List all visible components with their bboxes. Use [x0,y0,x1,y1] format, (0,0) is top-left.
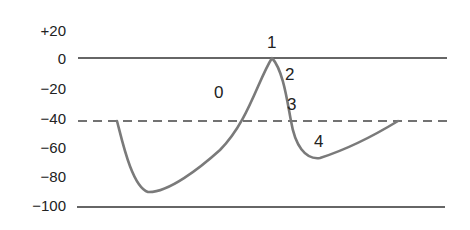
diagram-canvas [0,0,470,230]
phase-label-4: 4 [314,133,323,150]
action-potential-curve [117,58,398,192]
phase-label-0: 0 [214,84,223,101]
phase-label-1: 1 [267,34,276,51]
phase-label-2: 2 [285,66,294,83]
phase-label-3: 3 [287,96,296,113]
